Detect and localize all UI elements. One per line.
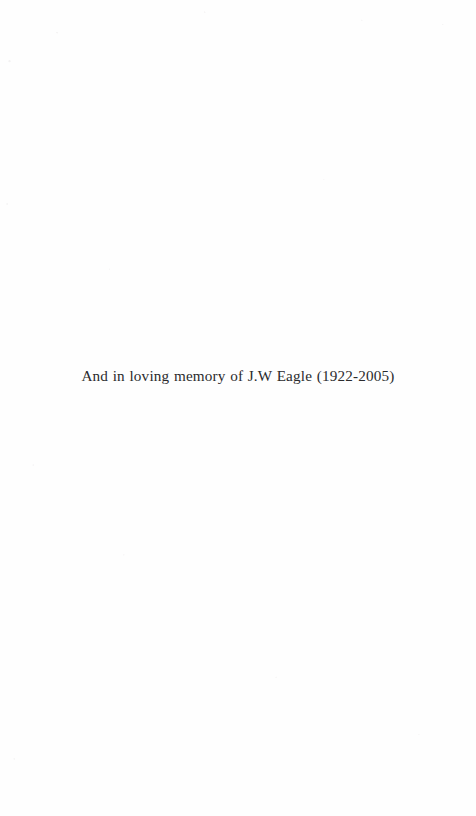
dedication-page: And in loving memory of J.W Eagle (1922-…: [0, 0, 476, 816]
paper-grain-texture: [0, 0, 476, 816]
dedication-block: And in loving memory of J.W Eagle (1922-…: [0, 366, 476, 385]
dedication-text: And in loving memory of J.W Eagle (1922-…: [81, 366, 394, 385]
